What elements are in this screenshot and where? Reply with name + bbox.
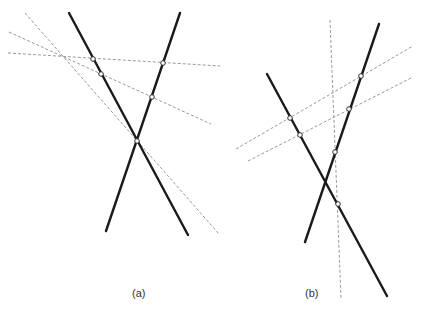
intersection-marker xyxy=(333,150,338,155)
panel-a: (a) xyxy=(8,13,220,299)
intersection-marker xyxy=(150,95,155,100)
diagram-canvas: (a) (b) xyxy=(0,0,421,310)
intersection-marker xyxy=(99,72,104,77)
intersection-marker xyxy=(336,202,341,207)
intersection-marker xyxy=(91,57,96,62)
panel-a-caption: (a) xyxy=(132,287,145,299)
dashed-parallel-2 xyxy=(248,77,413,161)
panel-b-caption: (b) xyxy=(305,287,318,299)
intersection-marker xyxy=(298,133,303,138)
solid-line-descending xyxy=(267,74,387,296)
dashed-transversal-2 xyxy=(9,32,211,124)
intersection-marker xyxy=(135,139,140,144)
intersection-marker xyxy=(347,107,352,112)
solid-line-ascending xyxy=(305,24,379,242)
intersection-marker xyxy=(359,74,364,79)
intersection-marker xyxy=(161,61,166,66)
dashed-transversal-1 xyxy=(25,13,219,234)
dashed-parallel-1 xyxy=(236,46,413,149)
dashed-vertical xyxy=(330,20,341,298)
panel-b: (b) xyxy=(236,20,413,299)
dashed-transversal-3 xyxy=(8,53,220,66)
intersection-marker xyxy=(288,116,293,121)
solid-line-descending xyxy=(69,13,188,235)
